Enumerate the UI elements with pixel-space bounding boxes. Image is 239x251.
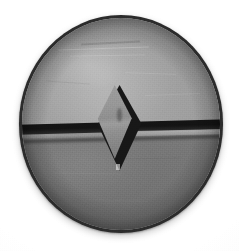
diamond-surface-speck (117, 108, 122, 122)
diamond-bottom-nick (116, 164, 120, 170)
disc-face (22, 18, 220, 229)
center-diamond (98, 85, 142, 171)
photograph-canvas (0, 0, 239, 251)
metal-disc (19, 15, 223, 232)
